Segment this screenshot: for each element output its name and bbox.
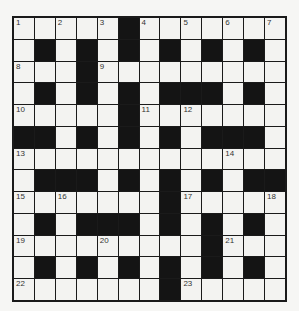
- answer-cell[interactable]: [160, 236, 180, 257]
- answer-cell[interactable]: [35, 105, 55, 126]
- answer-cell[interactable]: [140, 83, 160, 104]
- answer-cell[interactable]: [244, 18, 264, 39]
- answer-cell[interactable]: 11: [140, 105, 160, 126]
- answer-cell[interactable]: [244, 236, 264, 257]
- answer-cell[interactable]: [119, 236, 139, 257]
- answer-cell[interactable]: [223, 40, 243, 61]
- answer-cell[interactable]: [223, 192, 243, 213]
- answer-cell[interactable]: [56, 149, 76, 170]
- answer-cell[interactable]: [140, 62, 160, 83]
- answer-cell[interactable]: [35, 149, 55, 170]
- answer-cell[interactable]: 1: [14, 18, 34, 39]
- answer-cell[interactable]: [223, 279, 243, 300]
- answer-cell[interactable]: [265, 127, 285, 148]
- answer-cell[interactable]: [56, 105, 76, 126]
- answer-cell[interactable]: 4: [140, 18, 160, 39]
- answer-cell[interactable]: [77, 18, 97, 39]
- answer-cell[interactable]: [202, 62, 222, 83]
- answer-cell[interactable]: 12: [181, 105, 201, 126]
- answer-cell[interactable]: [244, 192, 264, 213]
- answer-cell[interactable]: 20: [98, 236, 118, 257]
- answer-cell[interactable]: [35, 236, 55, 257]
- answer-cell[interactable]: 7: [265, 18, 285, 39]
- answer-cell[interactable]: [181, 170, 201, 191]
- answer-cell[interactable]: 2: [56, 18, 76, 39]
- answer-cell[interactable]: [181, 62, 201, 83]
- answer-cell[interactable]: [265, 257, 285, 278]
- answer-cell[interactable]: [140, 192, 160, 213]
- answer-cell[interactable]: [202, 192, 222, 213]
- answer-cell[interactable]: [202, 149, 222, 170]
- answer-cell[interactable]: 22: [14, 279, 34, 300]
- answer-cell[interactable]: 5: [181, 18, 201, 39]
- answer-cell[interactable]: [244, 149, 264, 170]
- answer-cell[interactable]: [119, 192, 139, 213]
- answer-cell[interactable]: [140, 257, 160, 278]
- answer-cell[interactable]: [77, 105, 97, 126]
- answer-cell[interactable]: [56, 236, 76, 257]
- answer-cell[interactable]: [35, 18, 55, 39]
- answer-cell[interactable]: [98, 170, 118, 191]
- answer-cell[interactable]: [119, 62, 139, 83]
- answer-cell[interactable]: [77, 236, 97, 257]
- answer-cell[interactable]: [140, 127, 160, 148]
- answer-cell[interactable]: [181, 127, 201, 148]
- answer-cell[interactable]: [14, 257, 34, 278]
- answer-cell[interactable]: [223, 83, 243, 104]
- answer-cell[interactable]: [265, 149, 285, 170]
- answer-cell[interactable]: [14, 214, 34, 235]
- answer-cell[interactable]: [56, 257, 76, 278]
- answer-cell[interactable]: [119, 149, 139, 170]
- answer-cell[interactable]: [56, 214, 76, 235]
- answer-cell[interactable]: [223, 62, 243, 83]
- answer-cell[interactable]: [140, 279, 160, 300]
- answer-cell[interactable]: [56, 40, 76, 61]
- answer-cell[interactable]: [265, 279, 285, 300]
- answer-cell[interactable]: [98, 279, 118, 300]
- answer-cell[interactable]: [77, 149, 97, 170]
- answer-cell[interactable]: [181, 257, 201, 278]
- answer-cell[interactable]: [140, 149, 160, 170]
- answer-cell[interactable]: [160, 105, 180, 126]
- answer-cell[interactable]: [14, 40, 34, 61]
- answer-cell[interactable]: [56, 83, 76, 104]
- answer-cell[interactable]: 10: [14, 105, 34, 126]
- answer-cell[interactable]: [265, 214, 285, 235]
- answer-cell[interactable]: [98, 192, 118, 213]
- answer-cell[interactable]: 3: [98, 18, 118, 39]
- answer-cell[interactable]: 21: [223, 236, 243, 257]
- answer-cell[interactable]: 15: [14, 192, 34, 213]
- answer-cell[interactable]: 8: [14, 62, 34, 83]
- answer-cell[interactable]: [77, 192, 97, 213]
- answer-cell[interactable]: [223, 170, 243, 191]
- answer-cell[interactable]: [223, 214, 243, 235]
- answer-cell[interactable]: [56, 62, 76, 83]
- answer-cell[interactable]: [14, 83, 34, 104]
- answer-cell[interactable]: [35, 192, 55, 213]
- answer-cell[interactable]: [181, 214, 201, 235]
- answer-cell[interactable]: [140, 170, 160, 191]
- answer-cell[interactable]: 17: [181, 192, 201, 213]
- answer-cell[interactable]: [160, 62, 180, 83]
- answer-cell[interactable]: 18: [265, 192, 285, 213]
- answer-cell[interactable]: [14, 170, 34, 191]
- answer-cell[interactable]: [244, 279, 264, 300]
- answer-cell[interactable]: [265, 40, 285, 61]
- answer-cell[interactable]: [98, 127, 118, 148]
- answer-cell[interactable]: [98, 105, 118, 126]
- answer-cell[interactable]: [35, 62, 55, 83]
- answer-cell[interactable]: [98, 83, 118, 104]
- answer-cell[interactable]: [119, 279, 139, 300]
- answer-cell[interactable]: [244, 105, 264, 126]
- answer-cell[interactable]: [160, 18, 180, 39]
- answer-cell[interactable]: [98, 149, 118, 170]
- answer-cell[interactable]: 14: [223, 149, 243, 170]
- answer-cell[interactable]: 19: [14, 236, 34, 257]
- answer-cell[interactable]: [160, 149, 180, 170]
- answer-cell[interactable]: [202, 18, 222, 39]
- answer-cell[interactable]: [140, 236, 160, 257]
- answer-cell[interactable]: [265, 62, 285, 83]
- answer-cell[interactable]: [223, 105, 243, 126]
- answer-cell[interactable]: [181, 236, 201, 257]
- answer-cell[interactable]: [98, 40, 118, 61]
